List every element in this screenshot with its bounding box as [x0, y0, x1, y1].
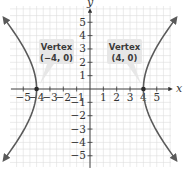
vertex-point-right	[141, 87, 146, 92]
y-tick-label: 5	[79, 16, 86, 28]
y-tick-label: −5	[71, 149, 86, 161]
y-tick-label: −2	[71, 109, 86, 121]
y-tick-label: 3	[79, 42, 86, 54]
y-tick-label: 1	[79, 69, 86, 81]
y-tick-label: −3	[71, 123, 86, 135]
callout-right-coords: (4, 0)	[112, 53, 138, 63]
y-tick-label: −4	[71, 136, 87, 148]
x-tick-label: 5	[153, 91, 160, 103]
vertex-point-left	[34, 87, 39, 92]
callout-left-coords: (−4, 0)	[40, 53, 73, 63]
x-tick-label: 3	[127, 91, 134, 103]
callout-right-vertex: Vertex (4, 0)	[107, 39, 142, 84]
hyperbola-diagram: Vertex (−4, 0) Vertex (4, 0) x y −5−4−3−…	[0, 0, 183, 175]
callout-left-title: Vertex	[41, 42, 73, 52]
x-tick-label: 2	[113, 91, 120, 103]
x-axis-label: x	[176, 82, 183, 95]
y-tick-label: 2	[79, 56, 86, 68]
grid	[10, 6, 171, 167]
x-tick-label: 1	[100, 91, 107, 103]
y-axis-ticks: 54321−1−2−3−4−5	[71, 16, 93, 162]
y-tick-label: 4	[79, 29, 86, 41]
callout-right-title: Vertex	[109, 42, 141, 52]
y-tick-label: −1	[71, 96, 86, 108]
y-axis-label: y	[86, 0, 94, 9]
